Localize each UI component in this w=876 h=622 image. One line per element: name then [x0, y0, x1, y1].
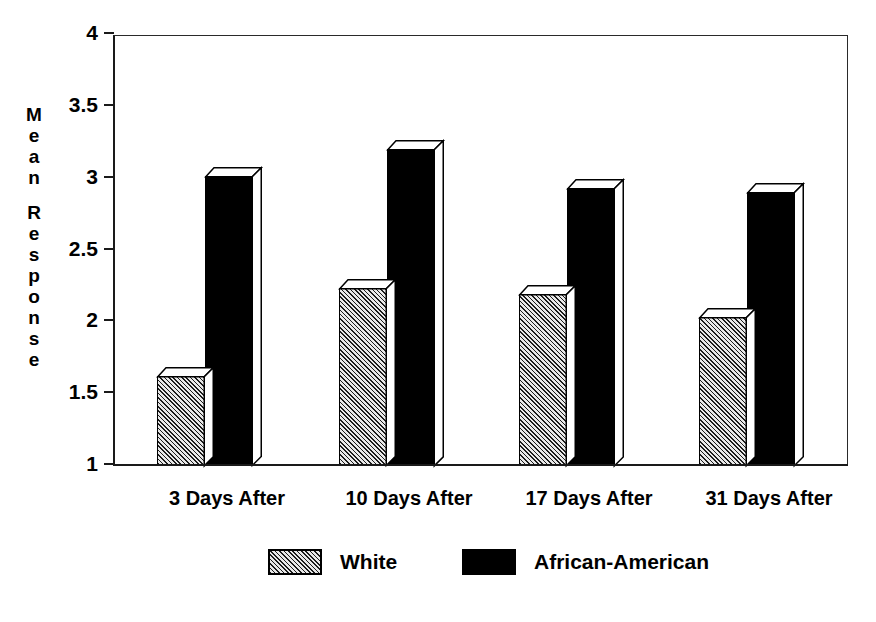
bar-side-face: [434, 141, 443, 466]
chart-legend: WhiteAfrican-American: [0, 549, 876, 589]
bar-side-face: [252, 168, 261, 466]
bar-white-1: [157, 376, 205, 465]
y-axis-tick: [104, 319, 114, 321]
legend-label: African-American: [534, 550, 709, 574]
legend-label: White: [340, 550, 397, 574]
bar-white-4: [699, 317, 747, 465]
y-axis-tick: [104, 32, 114, 34]
solid-black-swatch: [462, 549, 516, 575]
y-axis-tick-label-text: 3: [86, 166, 98, 187]
x-axis-tick-label: 31 Days After: [669, 487, 869, 510]
bar-3d-faces: [519, 285, 580, 469]
y-axis-tick: [104, 104, 114, 106]
bar-3d-faces: [157, 367, 218, 469]
bar-side-face: [386, 280, 395, 466]
x-axis-tick-label: 3 Days After: [127, 487, 327, 510]
y-axis-tick: [104, 463, 114, 465]
y-axis-tick-label-text: 1: [86, 453, 98, 474]
bar-side-face: [614, 179, 623, 465]
bar-side-face: [794, 184, 803, 466]
bar-white-3: [519, 294, 567, 465]
x-axis-baseline: [113, 464, 848, 466]
y-axis-tick: [104, 176, 114, 178]
x-axis-tick-label: 10 Days After: [309, 487, 509, 510]
plot-area: [113, 35, 848, 465]
y-axis-tick-label-text: 2: [86, 309, 98, 330]
bar-side-face: [746, 309, 755, 466]
y-axis-tick-label-text: 4: [86, 22, 98, 43]
legend-item-african-american: African-American: [462, 549, 709, 575]
y-axis-tick: [104, 248, 114, 250]
bar-chart-figure: Mean Response 11.522.533.54 3 Days After…: [0, 0, 876, 622]
y-axis-tick-label-text: 1.5: [69, 381, 98, 402]
bar-white-2: [339, 288, 387, 465]
y-axis-tick: [104, 391, 114, 393]
y-axis-tick-label-text: 2.5: [69, 238, 98, 259]
bar-3d-faces: [699, 308, 760, 469]
legend-item-white: White: [268, 549, 397, 575]
bar-side-face: [566, 286, 575, 466]
bar-side-face: [204, 368, 213, 466]
bar-3d-faces: [339, 279, 400, 469]
y-axis-tick-label-text: 3.5: [69, 94, 98, 115]
hatched-swatch: [268, 549, 322, 575]
x-axis-tick-labels: 3 Days After10 Days After17 Days After31…: [0, 487, 876, 517]
x-axis-tick-label: 17 Days After: [489, 487, 689, 510]
y-axis-tick-labels: 11.522.533.54: [0, 0, 98, 622]
